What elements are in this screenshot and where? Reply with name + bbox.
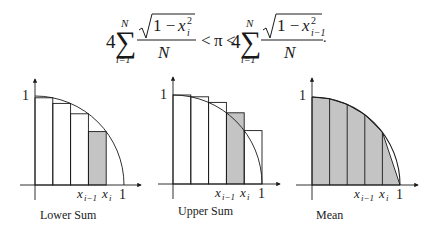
- x-i-label: x: [101, 186, 108, 201]
- panel-lower-sum: 1 1 x i−1 x i Lower Sum: [20, 79, 141, 222]
- denominator-right: N: [283, 43, 297, 62]
- y-tick-label: 1: [160, 87, 167, 102]
- relation-less-than-1: <: [201, 31, 211, 50]
- quarter-circle-curve: [173, 95, 262, 184]
- numerator-right-one: 1 −: [277, 16, 299, 35]
- formula-end-period: .: [323, 30, 327, 45]
- strip-5: [244, 131, 262, 184]
- formula: 4 ∑ N i=1 1 − x 2 i N < π < 4 ∑ N i=1 1 …: [0, 0, 433, 70]
- shaded-strip: [226, 113, 244, 184]
- y-tick-label: 1: [22, 88, 29, 103]
- strip-2: [191, 97, 209, 184]
- x-i-label: x: [378, 186, 385, 201]
- x-i-sub: i: [386, 193, 389, 203]
- x-i-sub: i: [247, 192, 250, 202]
- numerator-left-one: 1 −: [153, 16, 175, 35]
- shaded-strip: [88, 132, 106, 185]
- denominator-left: N: [157, 43, 171, 62]
- numerator-left-sub: i: [187, 27, 190, 38]
- riemann-sum-figure: 1 1 x i−1 x i Lower Sum 1 1 x i−1 x i Up…: [0, 70, 433, 233]
- x-tick-label: 1: [258, 186, 265, 201]
- x-im1-sub: i−1: [222, 192, 235, 202]
- sum-upper-limit-right: N: [245, 17, 254, 29]
- x-im1-sub: i−1: [361, 193, 374, 203]
- x-im1-sub: i−1: [84, 193, 97, 203]
- pi-symbol: π: [214, 31, 223, 50]
- panel-mean: 1 1 x i−1 x i Mean: [296, 78, 418, 222]
- x-im1-label: x: [214, 185, 221, 200]
- numerator-right-var: x: [301, 16, 310, 35]
- caption-upper-sum: Upper Sum: [178, 204, 234, 218]
- strip-1: [35, 98, 53, 185]
- strip-1: [173, 95, 191, 184]
- strip-2: [53, 103, 71, 185]
- shaded-trapezoids: [312, 97, 400, 185]
- x-i-sub: i: [109, 193, 112, 203]
- caption-lower-sum: Lower Sum: [40, 208, 97, 222]
- sum-upper-limit-left: N: [120, 17, 129, 29]
- caption-mean: Mean: [316, 208, 343, 222]
- x-tick-label: 1: [119, 187, 126, 202]
- numerator-right-sup: 2: [311, 15, 316, 26]
- quarter-circle-curve: [35, 96, 124, 185]
- numerator-left-var: x: [177, 16, 186, 35]
- sum-lower-limit-right: i=1: [241, 54, 256, 65]
- x-im1-label: x: [76, 186, 83, 201]
- y-tick-label: 1: [299, 88, 306, 103]
- x-i-label: x: [239, 185, 246, 200]
- strip-3: [71, 114, 89, 185]
- x-tick-label: 1: [396, 187, 403, 202]
- sum-lower-limit-left: i=1: [116, 54, 131, 65]
- numerator-left-sup: 2: [187, 15, 192, 26]
- strip-3: [209, 102, 227, 184]
- panel-upper-sum: 1 1 x i−1 x i Upper Sum: [158, 77, 280, 218]
- x-im1-label: x: [353, 186, 360, 201]
